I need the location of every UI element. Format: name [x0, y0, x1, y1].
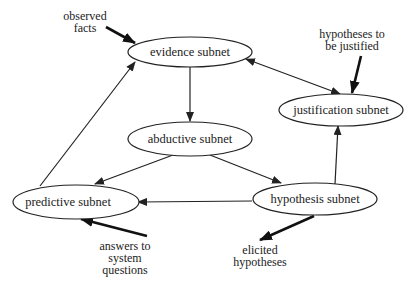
edge-abductive-predictive — [95, 155, 173, 184]
label-observed-facts: observed facts — [63, 9, 106, 35]
label-line: hypotheses — [233, 255, 287, 269]
node-label: justification subnet — [292, 103, 389, 117]
edge-elicited-output — [260, 216, 314, 240]
node-label: abductive subnet — [148, 132, 233, 146]
edge-hypotheses-to-justify-input — [352, 56, 361, 93]
edge-abductive-hypothesis — [210, 155, 281, 183]
edge-answers-input — [81, 219, 147, 236]
label-elicited-hypotheses: elicited hypotheses — [233, 243, 287, 269]
label-line: be justified — [325, 39, 379, 53]
node-label: predictive subnet — [25, 195, 111, 209]
node-justification-subnet: justification subnet — [279, 94, 403, 126]
node-label: hypothesis subnet — [270, 192, 360, 206]
node-evidence-subnet: evidence subnet — [128, 37, 252, 67]
edge-observed-facts-input — [106, 27, 135, 43]
label-line: facts — [74, 21, 97, 35]
node-label: evidence subnet — [150, 45, 231, 59]
label-hypotheses-to-be-justified: hypotheses to be justified — [319, 27, 385, 53]
node-hypothesis-subnet: hypothesis subnet — [253, 183, 377, 215]
subnet-diagram: evidence subnet abductive subnet justifi… — [0, 0, 414, 283]
edge-hypothesis-predictive — [138, 201, 252, 202]
label-answers-to-system-questions: answers to system questions — [100, 239, 151, 277]
edge-evidence-justification — [246, 59, 340, 94]
edge-predictive-evidence — [40, 62, 135, 186]
node-predictive-subnet: predictive subnet — [13, 185, 139, 219]
node-abductive-subnet: abductive subnet — [128, 122, 252, 156]
label-line: questions — [102, 263, 148, 277]
edge-hypothesis-justification — [335, 126, 338, 184]
